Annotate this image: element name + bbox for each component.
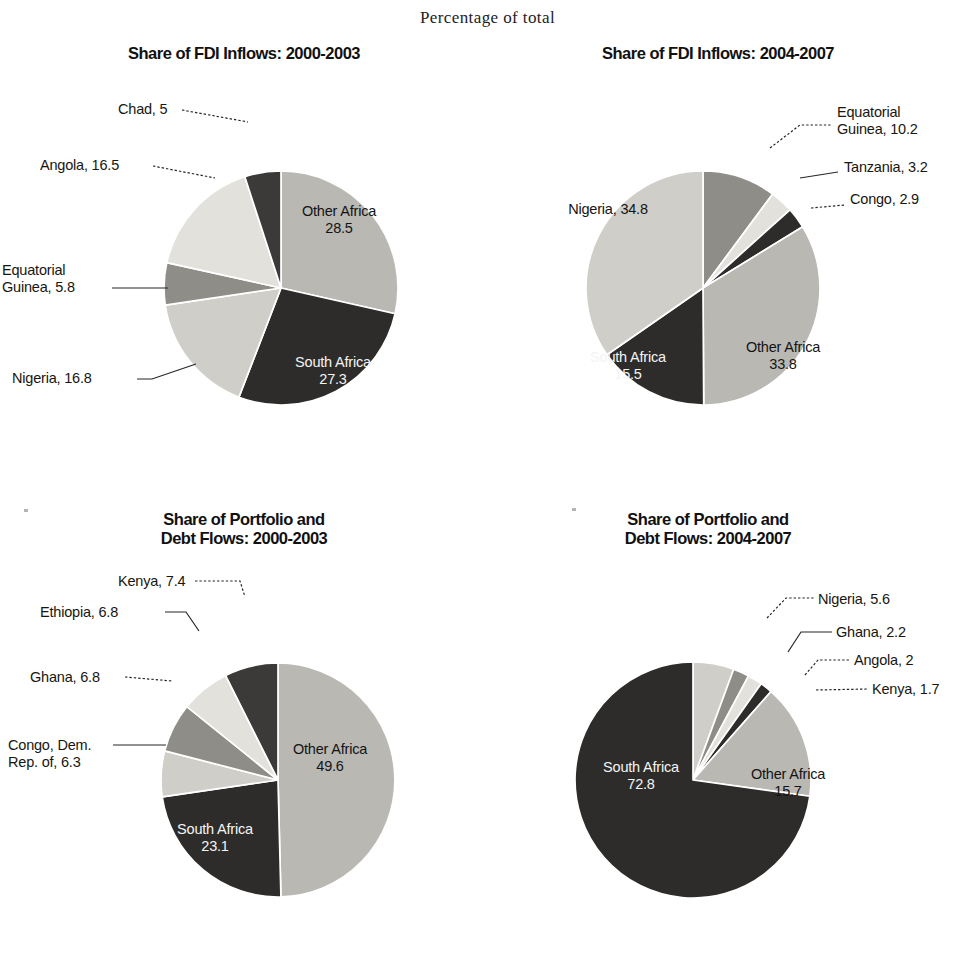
callout-label-chad: Chad, 5: [118, 101, 168, 117]
callout-label-equatorial-guinea: EquatorialGuinea, 5.8: [2, 262, 75, 295]
leader-line-nigeria: [767, 598, 814, 618]
pie-chart-fdi-2004-2007: Other Africa33.8South Africa15.5Nigeria,…: [488, 0, 975, 485]
leader-line-ghana: [788, 632, 832, 652]
callout-label-nigeria: Nigeria, 5.6: [818, 591, 890, 607]
callout-label-kenya: Kenya, 1.7: [872, 681, 939, 697]
panel-fdi-2004-2007: Share of FDI Inflows: 2004-2007 Other Af…: [488, 0, 975, 485]
pie-chart-portfolio-2000-2003: Other Africa49.6South Africa23.1Congo, D…: [0, 485, 488, 969]
leader-line-angola: [805, 660, 850, 675]
leader-line-kenya: [195, 581, 245, 597]
callout-label-equatorial-guinea: EquatorialGuinea, 10.2: [837, 104, 918, 137]
panel-fdi-2000-2003: Share of FDI Inflows: 2000-2003 Other Af…: [0, 0, 488, 485]
leader-line-chad: [182, 110, 248, 122]
callout-label-ghana: Ghana, 2.2: [836, 624, 906, 640]
figure-root: Percentage of total Share of FDI Inflows…: [0, 0, 975, 969]
leader-line-ghana: [125, 677, 172, 681]
callout-label-nigeria: Nigeria, 16.8: [12, 370, 92, 386]
leader-line-kenya: [816, 689, 868, 690]
leader-line-ethiopia: [165, 612, 199, 631]
callout-label-angola: Angola, 2: [854, 652, 914, 668]
callout-label-angola: Angola, 16.5: [40, 157, 119, 173]
panel-portfolio-2004-2007: Share of Portfolio and Debt Flows: 2004-…: [488, 485, 975, 969]
callout-label-kenya: Kenya, 7.4: [118, 573, 185, 589]
callout-label-congo-dem-rep-of: Congo, Dem.Rep. of, 6.3: [8, 737, 91, 770]
callout-label-tanzania: Tanzania, 3.2: [844, 159, 928, 175]
pie-chart-portfolio-2004-2007: Other Africa15.7South Africa72.8Nigeria,…: [488, 485, 975, 969]
leader-line-nigeria: [137, 364, 196, 379]
leader-line-equatorial-guinea: [770, 125, 832, 148]
callout-label-congo: Congo, 2.9: [850, 191, 919, 207]
pie-slice[interactable]: [278, 663, 395, 897]
callout-label-ghana: Ghana, 6.8: [30, 669, 100, 685]
leader-line-tanzania: [800, 172, 838, 178]
leader-line-angola: [153, 166, 215, 178]
slice-label-nigeria: Nigeria, 34.8: [568, 201, 648, 217]
leader-line-congo: [811, 205, 845, 208]
panel-portfolio-2000-2003: Share of Portfolio and Debt Flows: 2000-…: [0, 485, 488, 969]
callout-label-ethiopia: Ethiopia, 6.8: [40, 604, 118, 620]
pie-chart-fdi-2000-2003: Other Africa28.5South Africa27.3Nigeria,…: [0, 0, 488, 485]
